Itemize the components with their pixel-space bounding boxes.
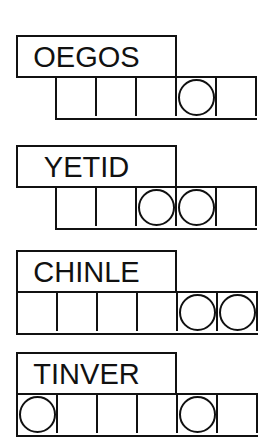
answer-row <box>16 291 258 335</box>
answer-letter <box>98 293 136 331</box>
answer-cell-5[interactable] <box>217 78 257 116</box>
answer-cell-3[interactable] <box>137 78 177 116</box>
answer-letter <box>177 188 215 226</box>
answer-letter <box>138 293 176 331</box>
answer-cell-2[interactable] <box>97 188 137 226</box>
jumble-puzzle-2: YETID <box>0 145 268 229</box>
scrambled-word-box: TINVER <box>16 352 177 395</box>
answer-letter <box>217 78 255 116</box>
answer-cell-3[interactable] <box>98 395 138 433</box>
answer-cell-6[interactable] <box>218 395 258 433</box>
answer-letter <box>218 293 256 331</box>
answer-row <box>55 76 257 120</box>
answer-cell-3[interactable] <box>98 293 138 331</box>
scrambled-word: CHINLE <box>18 253 175 291</box>
answer-letter <box>217 188 255 226</box>
answer-cell-4-circled[interactable] <box>177 188 217 226</box>
scrambled-word-box: CHINLE <box>16 250 177 293</box>
answer-letter <box>98 395 136 433</box>
answer-cell-6-circled[interactable] <box>218 293 258 331</box>
answer-cell-1[interactable] <box>57 188 97 226</box>
answer-letter <box>57 78 95 116</box>
answer-letter <box>178 395 216 433</box>
answer-letter <box>57 188 95 226</box>
scrambled-word-box: OEGOS <box>16 35 177 78</box>
answer-letter <box>177 78 215 116</box>
answer-cell-3-circled[interactable] <box>137 188 177 226</box>
answer-cell-4[interactable] <box>138 293 178 331</box>
answer-cell-5-circled[interactable] <box>178 395 218 433</box>
answer-letter <box>178 293 216 331</box>
answer-cell-2[interactable] <box>97 78 137 116</box>
answer-cell-1[interactable] <box>57 78 97 116</box>
answer-cell-5-circled[interactable] <box>178 293 218 331</box>
answer-letter <box>138 395 176 433</box>
answer-letter <box>97 78 135 116</box>
answer-cell-1-circled[interactable] <box>18 395 58 433</box>
answer-cell-4[interactable] <box>138 395 178 433</box>
answer-letter <box>58 395 96 433</box>
answer-letter <box>97 188 135 226</box>
answer-letter <box>18 293 56 331</box>
scrambled-word: YETID <box>18 148 175 186</box>
answer-row <box>16 393 258 437</box>
answer-cell-1[interactable] <box>18 293 58 331</box>
answer-letter <box>58 293 96 331</box>
answer-letter <box>137 188 175 226</box>
answer-cell-2[interactable] <box>58 395 98 433</box>
jumble-puzzle-3: CHINLE <box>0 250 268 334</box>
scrambled-word-box: YETID <box>16 145 177 188</box>
answer-letter <box>137 78 175 116</box>
answer-cell-4-circled[interactable] <box>177 78 217 116</box>
scrambled-word: TINVER <box>18 355 175 393</box>
answer-cell-2[interactable] <box>58 293 98 331</box>
jumble-puzzle-4: TINVER <box>0 352 268 436</box>
answer-cell-5[interactable] <box>217 188 257 226</box>
scrambled-word: OEGOS <box>18 38 175 76</box>
answer-letter <box>218 395 256 433</box>
jumble-puzzle-1: OEGOS <box>0 35 268 119</box>
answer-letter <box>18 395 56 433</box>
answer-row <box>55 186 257 230</box>
